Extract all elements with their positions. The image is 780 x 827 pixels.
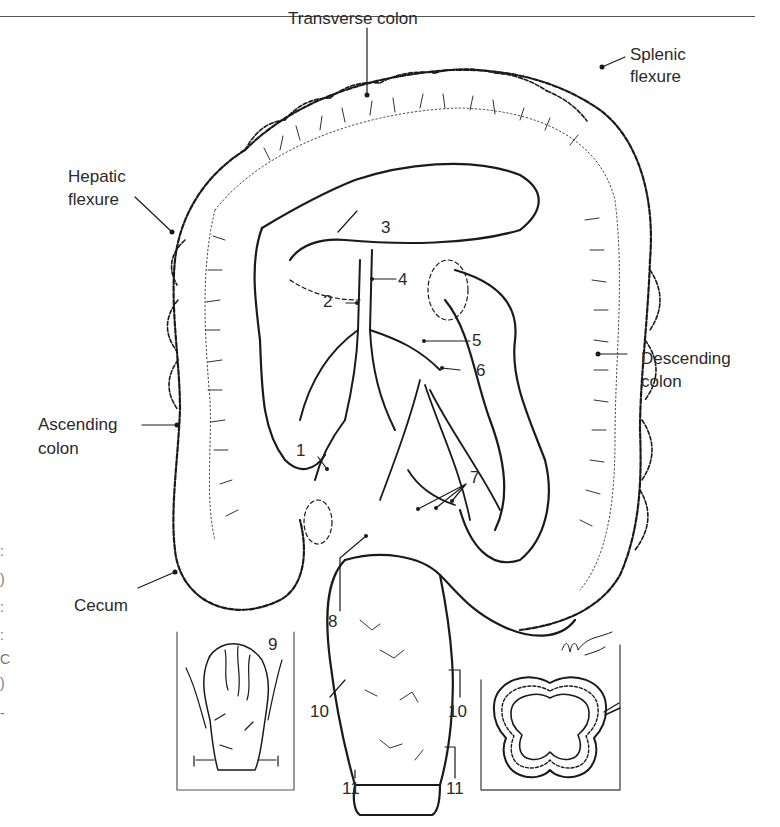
label-hepatic-flexure-line2: flexure: [68, 189, 119, 211]
callout-10-left: 10: [310, 702, 329, 722]
inset-cross-section: [481, 645, 620, 790]
label-ascending-colon-line1: Ascending: [38, 414, 117, 436]
colon-outline: [173, 70, 651, 630]
callout-3: 3: [381, 218, 390, 238]
edge-glyph: ): [0, 676, 5, 690]
edge-glyph: :: [0, 628, 4, 642]
leader-lines: [135, 28, 627, 778]
label-ascending-colon-line2: colon: [38, 438, 79, 460]
callout-9: 9: [268, 635, 277, 655]
callout-11-right: 11: [446, 779, 464, 799]
leader-dots: [170, 65, 605, 575]
callout-11-left: 11: [342, 779, 360, 799]
label-hepatic-flexure-line1: Hepatic: [68, 166, 126, 188]
callout-1: 1: [296, 441, 305, 461]
callout-10-right: 10: [448, 702, 467, 722]
edge-glyph: C: [0, 652, 10, 666]
label-splenic-flexure-line1: Splenic: [630, 44, 686, 66]
edge-glyph: ): [0, 572, 5, 586]
illustrator-signature: [562, 632, 612, 655]
callout-8: 8: [328, 612, 337, 632]
callout-7: 7: [470, 468, 479, 488]
callout-4: 4: [398, 270, 407, 290]
edge-glyph: :: [0, 600, 4, 614]
dashed-structures: [290, 260, 468, 544]
callout-5: 5: [472, 331, 481, 351]
inferior-mesenteric-branches: [380, 380, 500, 520]
label-descending-colon-line1: Descending: [641, 348, 731, 370]
callout-6: 6: [476, 361, 485, 381]
inset-rectum-posterior: [177, 632, 294, 790]
label-descending-colon-line2: colon: [641, 371, 682, 393]
label-splenic-flexure-line2: flexure: [630, 66, 681, 88]
superior-mesenteric-trunk: [300, 250, 440, 480]
rectum-vessels: [360, 620, 423, 760]
vasa-recta: [206, 94, 608, 526]
callout-2: 2: [323, 292, 332, 312]
edge-glyph: :: [0, 544, 4, 558]
marginal-artery: [255, 164, 549, 562]
label-cecum: Cecum: [74, 595, 128, 617]
edge-glyph: -: [0, 706, 5, 720]
label-transverse-colon: Transverse colon: [288, 8, 418, 30]
